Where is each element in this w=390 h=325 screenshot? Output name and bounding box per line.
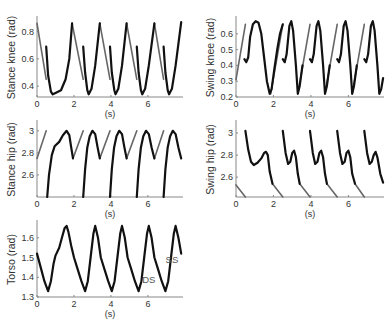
- y-tick-label: 0.3: [220, 76, 233, 86]
- x-tick-label: 0: [34, 299, 39, 309]
- ss-trajectory-line: [310, 21, 330, 94]
- ds-trajectory-line: [273, 184, 283, 197]
- ss-trajectory-line: [283, 21, 303, 94]
- torso-panel: 02461.31.41.51.6(s)Torso (rad)DSSS: [5, 220, 183, 319]
- ss-trajectory-line: [310, 131, 327, 184]
- y-tick-label: 2.6: [21, 170, 34, 180]
- x-tick-label: 4: [108, 299, 113, 309]
- x-tick-label: 6: [346, 199, 351, 209]
- figure: 02460.40.60.8(s)Stance knee (rad)02460.2…: [0, 0, 390, 325]
- x-tick-label: 2: [71, 199, 76, 209]
- y-tick-label: 1.4: [21, 272, 34, 282]
- swing-hip-panel: 02462.62.83(s)Swing hip (rad): [204, 120, 384, 219]
- ds-annotation: DS: [142, 274, 155, 285]
- stance-knee-panel: 02460.40.60.8(s)Stance knee (rad): [5, 16, 183, 119]
- ds-trajectory-line: [300, 184, 310, 197]
- x-tick-label: 2: [271, 199, 276, 209]
- ds-trajectory-line: [236, 24, 245, 79]
- y-axis-label: Swing knee (rad): [204, 18, 216, 97]
- ss-trajectory-line: [110, 131, 127, 197]
- y-tick-label: 0.6: [21, 54, 34, 64]
- ds-trajectory-line: [72, 23, 83, 79]
- ss-trajectory-line: [47, 131, 73, 197]
- y-axis-label: Stance hip (rad): [5, 122, 17, 197]
- ds-trajectory-line: [127, 131, 137, 159]
- x-axis-label: (s): [305, 209, 316, 219]
- ds-trajectory-line: [127, 23, 137, 79]
- x-tick-label: 0: [233, 199, 238, 209]
- x-tick-label: 6: [145, 99, 150, 109]
- x-axis-label: (s): [105, 309, 116, 319]
- x-tick-label: 6: [145, 299, 150, 309]
- ss-trajectory-line: [364, 131, 383, 183]
- x-tick-label: 6: [346, 99, 351, 109]
- x-tick-label: 6: [145, 199, 150, 209]
- ss-trajectory-line: [83, 131, 100, 197]
- ds-trajectory-line: [73, 131, 83, 159]
- ds-trajectory-line: [327, 184, 337, 197]
- ss-trajectory-line: [245, 131, 272, 184]
- y-tick-label: 0.2: [220, 92, 233, 102]
- x-tick-label: 4: [108, 199, 113, 209]
- ds-trajectory-line: [236, 185, 245, 197]
- x-tick-label: 2: [71, 99, 76, 109]
- x-axis-label: (s): [105, 109, 116, 119]
- ds-trajectory-line: [100, 23, 110, 79]
- y-tick-label: 3: [228, 128, 233, 138]
- ss-trajectory-line: [283, 131, 300, 184]
- ds-trajectory-line: [154, 131, 163, 159]
- ss-trajectory-line: [46, 23, 72, 94]
- x-tick-label: 4: [308, 199, 313, 209]
- y-tick-label: 1.5: [21, 253, 34, 263]
- ds-trajectory-line: [37, 23, 46, 79]
- swing-knee-panel: 02460.20.30.40.50.6(s)Swing knee (rad): [204, 16, 384, 119]
- x-tick-label: 2: [71, 299, 76, 309]
- y-tick-label: 3: [29, 126, 34, 136]
- x-tick-label: 0: [34, 99, 39, 109]
- ss-trajectory-line: [337, 21, 357, 94]
- y-tick-label: 0.8: [21, 27, 34, 37]
- ss-trajectory-line: [110, 23, 127, 94]
- y-tick-label: 0.6: [220, 29, 233, 39]
- x-tick-label: 2: [271, 99, 276, 109]
- ds-trajectory-line: [37, 131, 46, 159]
- ss-annotation: SS: [166, 254, 179, 265]
- ss-trajectory-line: [37, 226, 181, 291]
- x-tick-label: 4: [308, 99, 313, 109]
- y-tick-label: 2.6: [220, 172, 233, 182]
- ss-trajectory-line: [164, 131, 182, 197]
- y-tick-label: 2.8: [21, 148, 34, 158]
- ss-trajectory-line: [137, 131, 155, 197]
- x-tick-label: 4: [108, 99, 113, 109]
- x-axis-label: (s): [105, 209, 116, 219]
- y-axis-label: Stance knee (rad): [5, 16, 17, 99]
- ss-trajectory-line: [364, 21, 383, 94]
- y-tick-label: 2.8: [220, 150, 233, 160]
- y-tick-label: 0.4: [21, 81, 34, 91]
- ds-trajectory-line: [154, 23, 163, 79]
- ds-trajectory-line: [355, 184, 364, 197]
- x-tick-label: 0: [233, 99, 238, 109]
- y-tick-label: 0.4: [220, 60, 233, 70]
- ss-trajectory-line: [244, 21, 282, 94]
- stance-hip-panel: 02462.62.83(s)Stance hip (rad): [5, 120, 183, 219]
- y-tick-label: 1.6: [21, 233, 34, 243]
- y-axis-label: Torso (rad): [5, 234, 17, 285]
- x-tick-label: 0: [34, 199, 39, 209]
- ss-trajectory-line: [83, 23, 100, 94]
- y-tick-label: 1.3: [21, 292, 34, 302]
- x-axis-label: (s): [305, 109, 316, 119]
- ss-trajectory-line: [164, 22, 182, 94]
- ss-trajectory-line: [137, 23, 155, 94]
- ss-trajectory-line: [337, 131, 355, 184]
- y-axis-label: Swing hip (rad): [204, 124, 216, 195]
- ds-trajectory-line: [100, 131, 110, 159]
- y-tick-label: 0.5: [220, 45, 233, 55]
